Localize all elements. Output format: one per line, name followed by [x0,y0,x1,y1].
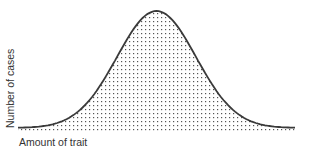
x-axis-label: Amount of trait [19,136,87,148]
y-axis-label: Number of cases [4,49,16,128]
bell-curve-chart [0,0,313,154]
stipple-fill [0,0,313,154]
